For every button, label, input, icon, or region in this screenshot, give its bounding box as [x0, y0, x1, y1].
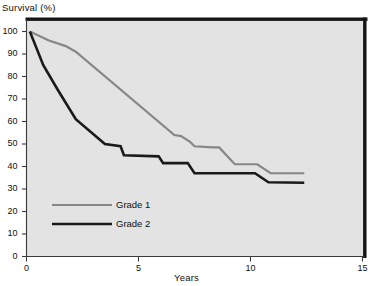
x-tick-label: 10 — [241, 263, 261, 273]
y-tick-label: 70 — [0, 93, 18, 103]
y-tick-label: 0 — [0, 251, 18, 261]
x-tick-label: 0 — [17, 263, 37, 273]
y-tick-label: 20 — [0, 206, 18, 216]
x-tick-label: 5 — [129, 263, 149, 273]
y-tick-label: 60 — [0, 116, 18, 126]
survival-curve-figure: Survival (%) Years 010203040506070809010… — [0, 0, 373, 286]
legend-label-1: Grade 1 — [116, 199, 150, 210]
y-tick-label: 40 — [0, 161, 18, 171]
legend-label-2: Grade 2 — [116, 218, 150, 229]
y-tick-label: 50 — [0, 138, 18, 148]
y-tick-label: 100 — [0, 26, 18, 36]
y-tick-label: 10 — [0, 228, 18, 238]
x-tick-label: 15 — [353, 263, 373, 273]
y-tick-label: 30 — [0, 183, 18, 193]
y-tick-label: 80 — [0, 71, 18, 81]
y-tick-label: 90 — [0, 48, 18, 58]
plot-canvas — [0, 0, 373, 286]
